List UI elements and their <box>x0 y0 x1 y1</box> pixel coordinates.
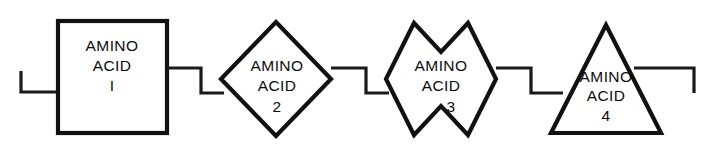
node-4-label-line-2: ACID <box>587 87 626 104</box>
amino-acid-chain-diagram: AMINO ACID I AMINO ACID 2 AMINO ACID 3 A… <box>0 0 716 150</box>
node-4-label-line-1: AMINO <box>580 68 633 85</box>
connector-left-terminal <box>21 71 59 92</box>
node-1-label-line-2: ACID <box>93 57 132 74</box>
connector-right-terminal <box>634 68 694 93</box>
connector-node-2-to-node-3 <box>331 68 389 93</box>
amino-acid-chain-canvas: AMINO ACID I AMINO ACID 2 AMINO ACID 3 A… <box>0 0 716 150</box>
node-4-index-label: 4 <box>601 107 610 124</box>
node-1-index-label: I <box>110 77 115 94</box>
node-2-label-line-2: ACID <box>258 77 297 94</box>
connector-node-3-to-node-4 <box>496 68 563 93</box>
node-1-label-line-1: AMINO <box>86 37 139 54</box>
connector-node-1-to-node-2 <box>167 68 224 93</box>
node-2-label-line-1: AMINO <box>251 57 304 74</box>
node-3-index-label: 3 <box>446 98 455 115</box>
node-3-label-line-1: AMINO <box>415 57 468 74</box>
node-3-label-line-2: ACID <box>422 77 461 94</box>
node-2-index-label: 2 <box>272 98 281 115</box>
